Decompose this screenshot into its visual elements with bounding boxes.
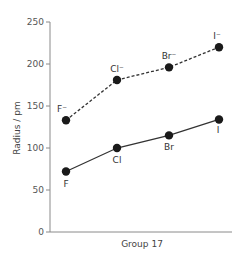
series-layer: F⁻Cl⁻Br⁻I⁻FClBrI <box>57 31 223 188</box>
axes: 050100150200250 <box>27 17 232 237</box>
y-axis-title: Radius / pm <box>12 101 22 154</box>
data-point-marker <box>165 63 173 71</box>
data-point-marker <box>62 116 70 124</box>
data-point-marker <box>62 167 70 175</box>
data-point-label: Br⁻ <box>162 51 177 61</box>
atomic-radius-line <box>66 119 219 171</box>
ionic-radius-line <box>66 47 219 120</box>
data-point-label: Cl <box>113 155 122 165</box>
data-point-label: F⁻ <box>57 104 67 114</box>
y-tick-label: 50 <box>33 185 45 195</box>
radius-chart: 050100150200250 F⁻Cl⁻Br⁻I⁻FClBrI Group 1… <box>0 0 240 257</box>
y-tick-label: 0 <box>38 227 44 237</box>
y-tick-label: 100 <box>27 143 44 153</box>
y-tick-label: 200 <box>27 59 44 69</box>
y-tick-label: 250 <box>27 17 44 27</box>
x-axis-title: Group 17 <box>121 239 163 249</box>
data-point-label: Br <box>164 142 174 152</box>
chart-canvas: 050100150200250 F⁻Cl⁻Br⁻I⁻FClBrI Group 1… <box>0 0 240 257</box>
data-point-label: F <box>63 179 68 189</box>
y-tick-label: 150 <box>27 101 44 111</box>
data-point-marker <box>215 115 223 123</box>
data-point-label: I <box>217 125 220 135</box>
data-point-marker <box>165 131 173 139</box>
data-point-marker <box>215 43 223 51</box>
data-point-marker <box>113 144 121 152</box>
data-point-marker <box>113 76 121 84</box>
data-point-label: Cl⁻ <box>110 64 124 74</box>
data-point-label: I⁻ <box>213 31 221 41</box>
